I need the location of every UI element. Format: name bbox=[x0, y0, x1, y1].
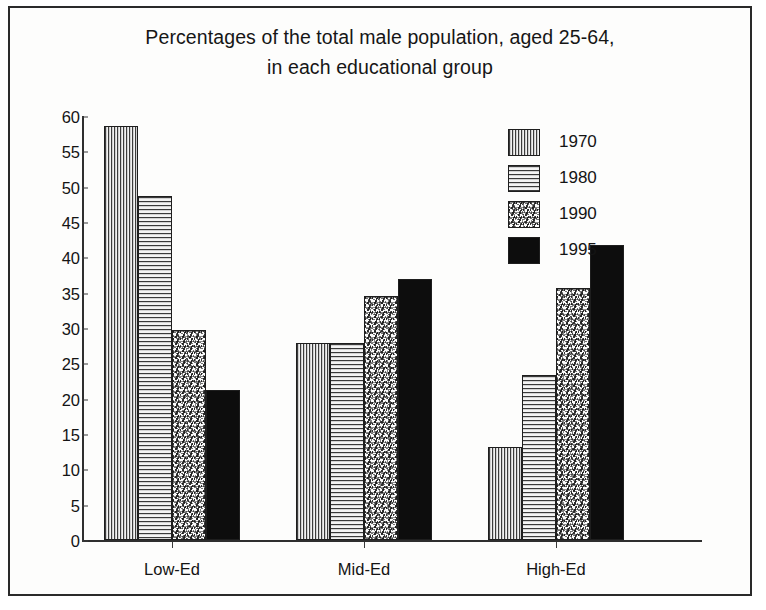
y-axis-tick-mark bbox=[82, 435, 88, 436]
legend-swatch-1970 bbox=[508, 129, 540, 156]
bar-mid-ed-1970 bbox=[296, 343, 330, 540]
chart-title: Percentages of the total male population… bbox=[10, 22, 750, 82]
bar-high-ed-1990 bbox=[556, 288, 590, 540]
y-axis-tick-mark bbox=[82, 470, 88, 471]
y-axis-tick-label: 50 bbox=[40, 178, 80, 197]
x-axis-label-mid-ed: Mid-Ed bbox=[338, 560, 390, 579]
y-axis-tick-mark bbox=[82, 293, 88, 294]
bar-high-ed-1970 bbox=[488, 447, 522, 540]
chart-legend: 1970198019901995 bbox=[508, 124, 668, 268]
legend-item-1970: 1970 bbox=[508, 124, 668, 160]
y-axis-tick-mark bbox=[82, 187, 88, 188]
legend-swatch-1980 bbox=[508, 165, 540, 192]
bar-mid-ed-1990 bbox=[364, 296, 398, 540]
y-axis-tick-label: 0 bbox=[40, 532, 80, 551]
y-axis-tick-label: 60 bbox=[40, 108, 80, 127]
chart-frame: Percentages of the total male population… bbox=[8, 6, 752, 596]
chart-title-line-2: in each educational group bbox=[10, 52, 750, 82]
y-axis-tick-label: 35 bbox=[40, 284, 80, 303]
legend-item-1990: 1990 bbox=[508, 196, 668, 232]
y-axis-tick-label: 20 bbox=[40, 390, 80, 409]
bar-high-ed-1995 bbox=[590, 245, 624, 540]
y-axis-tick-mark bbox=[82, 364, 88, 365]
x-axis-tick-mark bbox=[556, 542, 557, 548]
bar-low-ed-1970 bbox=[104, 126, 138, 540]
bar-low-ed-1980 bbox=[138, 196, 172, 540]
x-axis-label-high-ed: High-Ed bbox=[526, 560, 586, 579]
y-axis-tick-label: 25 bbox=[40, 355, 80, 374]
legend-item-1995: 1995 bbox=[508, 232, 668, 268]
legend-label-1990: 1990 bbox=[559, 204, 597, 224]
y-axis-tick-label: 30 bbox=[40, 320, 80, 339]
y-axis-tick-mark bbox=[82, 329, 88, 330]
x-axis-tick-mark bbox=[172, 542, 173, 548]
y-axis-tick-mark bbox=[82, 117, 88, 118]
y-axis-tick-mark bbox=[82, 258, 88, 259]
y-axis-tick-label: 45 bbox=[40, 214, 80, 233]
bar-low-ed-1990 bbox=[172, 330, 206, 540]
legend-label-1995: 1995 bbox=[559, 240, 597, 260]
legend-swatch-1995 bbox=[508, 237, 540, 264]
y-axis-tick-label: 40 bbox=[40, 249, 80, 268]
bar-low-ed-1995 bbox=[206, 390, 240, 540]
legend-label-1970: 1970 bbox=[559, 132, 597, 152]
y-axis-tick-mark bbox=[82, 152, 88, 153]
y-axis-tick-label: 55 bbox=[40, 143, 80, 162]
bar-mid-ed-1980 bbox=[330, 343, 364, 540]
x-axis-tick-mark bbox=[364, 542, 365, 548]
chart-title-line-1: Percentages of the total male population… bbox=[145, 26, 614, 48]
y-axis-tick-label: 5 bbox=[40, 496, 80, 515]
y-axis-tick-label: 15 bbox=[40, 426, 80, 445]
y-axis-tick-mark bbox=[82, 399, 88, 400]
bar-high-ed-1980 bbox=[522, 375, 556, 540]
y-axis-tick-mark bbox=[82, 505, 88, 506]
y-axis-tick-mark bbox=[82, 223, 88, 224]
legend-label-1980: 1980 bbox=[559, 168, 597, 188]
legend-item-1980: 1980 bbox=[508, 160, 668, 196]
bar-mid-ed-1995 bbox=[398, 279, 432, 540]
legend-swatch-1990 bbox=[508, 201, 540, 228]
y-axis-tick-label: 10 bbox=[40, 461, 80, 480]
x-axis-line bbox=[82, 540, 702, 542]
x-axis-label-low-ed: Low-Ed bbox=[144, 560, 200, 579]
y-axis-tick-mark bbox=[82, 541, 88, 542]
